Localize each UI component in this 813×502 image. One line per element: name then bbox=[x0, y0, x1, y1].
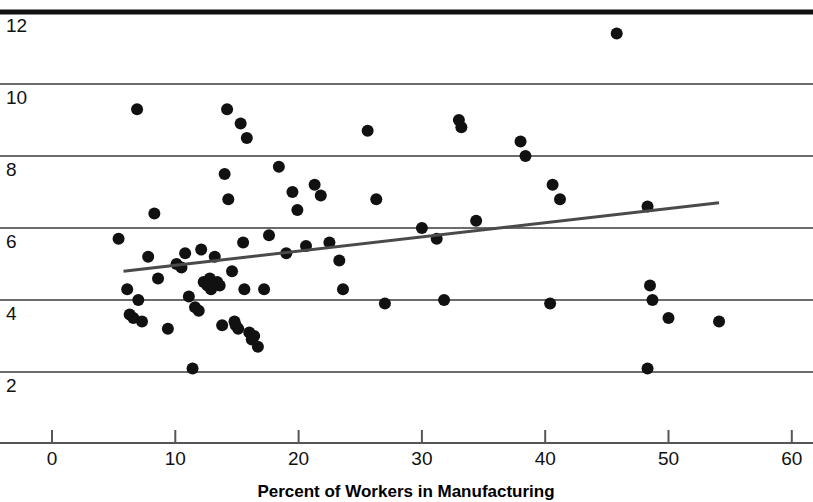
x-tick-label-50: 50 bbox=[658, 448, 679, 469]
data-point bbox=[113, 233, 125, 245]
data-point bbox=[642, 362, 654, 374]
data-point bbox=[273, 161, 285, 173]
data-point bbox=[238, 283, 250, 295]
data-point bbox=[258, 283, 270, 295]
data-point bbox=[132, 294, 144, 306]
data-point bbox=[193, 305, 205, 317]
scatter-plot-figure: 24681012 0102030405060 Percent of Worker… bbox=[0, 0, 813, 502]
data-point bbox=[235, 118, 247, 130]
data-point bbox=[263, 229, 275, 241]
data-point bbox=[315, 190, 327, 202]
data-point bbox=[179, 247, 191, 259]
data-point bbox=[438, 294, 450, 306]
data-point bbox=[547, 179, 559, 191]
x-tick-label-10: 10 bbox=[165, 448, 186, 469]
data-point bbox=[362, 125, 374, 137]
y-tick-label-10: 10 bbox=[6, 87, 27, 108]
data-point bbox=[252, 341, 264, 353]
x-tick-label-40: 40 bbox=[535, 448, 556, 469]
data-point bbox=[152, 272, 164, 284]
data-point bbox=[232, 323, 244, 335]
data-point bbox=[544, 298, 556, 310]
chart-canvas: 24681012 0102030405060 Percent of Worker… bbox=[0, 0, 813, 502]
y-tick-label-2: 2 bbox=[6, 375, 17, 396]
y-tick-label-6: 6 bbox=[6, 231, 17, 252]
y-tick-label-8: 8 bbox=[6, 159, 17, 180]
data-point bbox=[291, 204, 303, 216]
data-point bbox=[162, 323, 174, 335]
data-point bbox=[515, 136, 527, 148]
data-point bbox=[226, 265, 238, 277]
data-point bbox=[216, 319, 228, 331]
data-point bbox=[611, 28, 623, 40]
data-point bbox=[416, 222, 428, 234]
data-point bbox=[183, 290, 195, 302]
data-point bbox=[222, 193, 234, 205]
data-point bbox=[309, 179, 321, 191]
data-point bbox=[370, 193, 382, 205]
chart-background bbox=[0, 0, 813, 502]
data-point bbox=[455, 121, 467, 133]
data-point bbox=[221, 103, 233, 115]
data-point bbox=[646, 294, 658, 306]
data-point bbox=[237, 236, 249, 248]
data-point bbox=[195, 244, 207, 256]
x-tick-label-20: 20 bbox=[288, 448, 309, 469]
data-point bbox=[713, 316, 725, 328]
data-point bbox=[248, 330, 260, 342]
data-point bbox=[286, 186, 298, 198]
x-tick-label-30: 30 bbox=[411, 448, 432, 469]
data-point bbox=[219, 168, 231, 180]
data-point bbox=[136, 316, 148, 328]
data-point bbox=[337, 283, 349, 295]
data-point bbox=[379, 298, 391, 310]
data-point bbox=[554, 193, 566, 205]
data-point bbox=[663, 312, 675, 324]
data-point bbox=[241, 132, 253, 144]
x-tick-label-60: 60 bbox=[781, 448, 802, 469]
data-point bbox=[148, 208, 160, 220]
y-tick-label-4: 4 bbox=[6, 303, 17, 324]
data-point bbox=[470, 215, 482, 227]
x-axis-title: Percent of Workers in Manufacturing bbox=[257, 482, 554, 501]
data-point bbox=[121, 283, 133, 295]
x-tick-label-0: 0 bbox=[47, 448, 58, 469]
data-point bbox=[187, 362, 199, 374]
data-point bbox=[142, 251, 154, 263]
y-tick-label-12: 12 bbox=[6, 15, 27, 36]
data-point bbox=[214, 280, 226, 292]
data-point bbox=[333, 254, 345, 266]
data-point bbox=[131, 103, 143, 115]
data-point bbox=[519, 150, 531, 162]
data-point bbox=[644, 280, 656, 292]
